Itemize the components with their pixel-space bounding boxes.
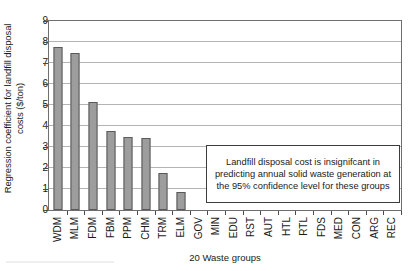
x-axis-tick-mark [137, 211, 138, 215]
x-axis-tick-mark [119, 211, 120, 215]
x-axis-tick-label-text: TRM [158, 217, 168, 239]
x-axis-tick-label-text: RST [246, 217, 256, 237]
bar-slot [119, 21, 137, 210]
x-axis-tick-mark [155, 211, 156, 215]
x-axis-tick-label-text: REC [387, 217, 397, 238]
x-axis-tick-label-text: CON [352, 217, 362, 239]
bar-fdm [88, 102, 97, 210]
bar-chart: Regression coefficient for landfill disp… [0, 0, 413, 271]
y-axis-tick-label: 7 [8, 58, 48, 68]
x-axis-tick-mark [366, 211, 367, 215]
x-axis-tick-mark [102, 211, 103, 215]
x-axis-tick-label-text: MED [334, 217, 344, 239]
x-axis-tick-mark [401, 211, 402, 215]
bar-slot [190, 21, 208, 210]
bar-ppm [124, 137, 133, 211]
y-axis-tick-label: 1 [8, 184, 48, 194]
bar-slot [67, 21, 85, 210]
x-axis-tick-label-text: FDM [88, 217, 98, 239]
x-axis-tick-mark [190, 211, 191, 215]
x-axis-tick-mark [295, 211, 296, 215]
x-axis-tick-mark [331, 211, 332, 215]
bar-slot [155, 21, 173, 210]
x-axis-tick-label-text: MLM [70, 217, 80, 239]
bar-chm [141, 138, 150, 210]
x-axis-tick-mark [243, 211, 244, 215]
x-axis-tick-mark [348, 211, 349, 215]
bar-mlm [71, 53, 80, 210]
x-axis-tick-mark [278, 211, 279, 215]
x-axis-tick-mark [383, 211, 384, 215]
x-axis-tick-label-text: EDU [229, 217, 239, 238]
x-axis-tick-label-text: ARG [370, 217, 380, 239]
bar-slot [84, 21, 102, 210]
y-axis-ticks: 0123456789 [0, 0, 48, 271]
y-axis-tick-label: 5 [8, 100, 48, 110]
x-axis-tick-mark [67, 211, 68, 215]
y-axis-tick-label: 4 [8, 121, 48, 131]
x-axis-tick-mark [207, 211, 208, 215]
annotation-box: Landfill disposal cost is insignifcant i… [206, 145, 400, 203]
x-axis-tick-label-text: FDS [317, 217, 327, 237]
annotation-text: Landfill disposal cost is insignifcant i… [212, 156, 394, 193]
y-axis-tick-label: 6 [8, 79, 48, 89]
x-axis-tick-label-text: PPM [123, 217, 133, 239]
x-axis-tick-label-text: MIN [211, 217, 221, 235]
x-axis-tick-label-text: RTL [299, 217, 309, 236]
x-axis-tick-label-text: HTL [282, 217, 292, 236]
y-axis-tick-label: 3 [8, 142, 48, 152]
x-axis-tick-mark [172, 211, 173, 215]
bar-slot [172, 21, 190, 210]
x-axis-tick-mark [225, 211, 226, 215]
x-axis-tick-label-text: FBM [106, 217, 116, 238]
x-axis-tick-mark [260, 211, 261, 215]
bar-elm [176, 192, 185, 210]
x-axis-tick-label-text: GOV [194, 217, 204, 239]
x-axis-tick-label-text: AUT [264, 217, 274, 237]
y-axis-tick-label: 8 [8, 37, 48, 47]
x-axis-tick-label-text: CHM [141, 217, 151, 240]
bar-fbm [106, 131, 115, 210]
y-axis-tick-label: 9 [8, 16, 48, 26]
bar-slot [137, 21, 155, 210]
scan-artifact [6, 261, 114, 263]
bar-trm [159, 173, 168, 210]
x-axis-tick-mark [84, 211, 85, 215]
y-axis-tick-label: 2 [8, 163, 48, 173]
y-axis-tick-label: 0 [8, 205, 48, 215]
bar-slot [102, 21, 120, 210]
bar-wdm [53, 47, 62, 210]
x-axis-tick-label-text: ELM [176, 217, 186, 238]
x-axis-tick-mark [313, 211, 314, 215]
bar-slot [49, 21, 67, 210]
x-axis-tick-label-text: WDM [53, 217, 63, 242]
